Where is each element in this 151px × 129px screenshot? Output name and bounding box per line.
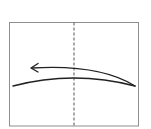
fold-diagram [0, 0, 151, 129]
diagram-svg [0, 0, 151, 129]
